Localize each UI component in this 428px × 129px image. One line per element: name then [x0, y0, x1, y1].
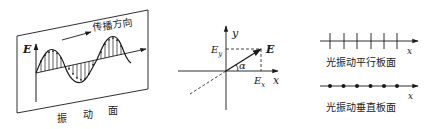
propagation-label: 传播方向 [92, 16, 133, 33]
parallel-axis-label: x [407, 46, 412, 56]
e-axis-label: E [22, 43, 32, 56]
figure-vector-components: y x E α Ey Ex [178, 26, 280, 110]
ex-label-sub: x [261, 81, 265, 89]
polarization-diagrams: E [0, 0, 428, 129]
plane-label-char-2: 动 [83, 109, 93, 120]
parallel-caption: 光振动平行板面 [326, 56, 396, 68]
ey-label-sub: y [217, 50, 223, 58]
figure-polarization-notation: x 光振动平行板面 x 光振动垂直板面 [320, 33, 418, 113]
field-vectors [41, 37, 121, 81]
e-vector-label: E [265, 43, 275, 56]
ex-label: Ex [253, 75, 265, 89]
dashed-extension [190, 71, 226, 94]
propagation-arrow [62, 32, 91, 40]
angle-label: α [239, 60, 246, 71]
y-axis-label: y [231, 27, 239, 40]
ey-label: Ey [210, 44, 223, 58]
angle-arc [236, 65, 238, 71]
plane-label-char-1: 振 [57, 112, 67, 124]
x-axis-label: x [273, 74, 280, 87]
plane-label-char-3: 面 [108, 105, 118, 116]
perpendicular-axis-label: x [408, 91, 413, 101]
figure-wave-plane: E [17, 10, 148, 124]
perpendicular-caption: 光振动垂直板面 [326, 101, 396, 113]
